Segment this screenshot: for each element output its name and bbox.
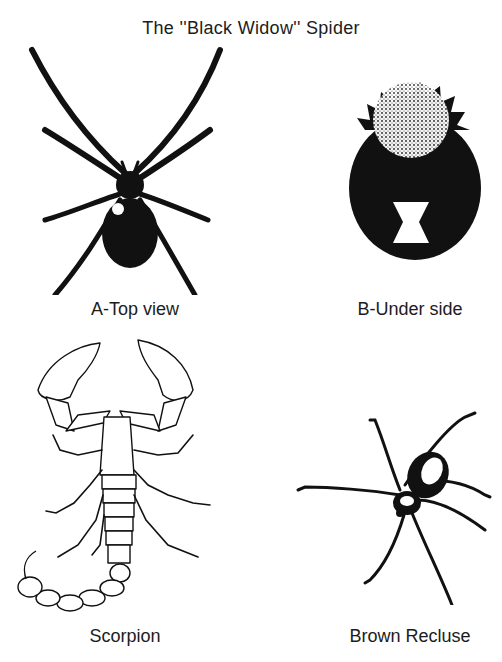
caption-d: Brown Recluse — [330, 626, 490, 647]
caption-b: B-Under side — [330, 299, 490, 320]
black-widow-top-view-illustration — [20, 45, 240, 295]
black-widow-underside-illustration — [345, 80, 485, 265]
caption-c: Scorpion — [45, 626, 205, 647]
brown-recluse-illustration — [290, 405, 495, 605]
caption-a: A-Top view — [55, 299, 215, 320]
page-title: The ''Black Widow'' Spider — [0, 18, 502, 39]
scorpion-illustration — [8, 335, 228, 620]
